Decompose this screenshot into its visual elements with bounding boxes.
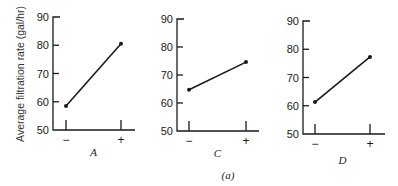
effect-line (315, 57, 370, 102)
x-tick-label-minus: − (311, 137, 318, 151)
y-tick-label: 80 (287, 43, 299, 55)
panel-factor-a: 5060708090−+A (37, 11, 135, 158)
y-tick-label: 80 (161, 41, 173, 53)
data-point (368, 55, 372, 59)
y-tick-label: 80 (37, 39, 49, 51)
x-tick-label-minus: − (62, 133, 69, 147)
x-tick-label-plus: + (242, 134, 249, 148)
data-point (119, 42, 123, 46)
y-tick-label: 50 (161, 125, 173, 137)
factor-label: C (214, 147, 222, 159)
y-tick-label: 60 (287, 100, 299, 112)
factor-label: A (89, 146, 97, 158)
figure-caption: (a) (222, 169, 235, 182)
panel-factor-c: 5060708090−+C (161, 13, 259, 159)
x-tick-label-plus: + (366, 137, 373, 151)
y-tick-label: 70 (161, 69, 173, 81)
y-tick-label: 70 (37, 68, 49, 80)
effect-line (189, 62, 246, 90)
effect-line (66, 44, 121, 106)
y-tick-label: 60 (37, 96, 49, 108)
y-tick-label: 60 (161, 97, 173, 109)
data-point (313, 100, 317, 104)
y-axis-label: Average filtration rate (gal/hr) (14, 6, 26, 142)
y-tick-label: 50 (37, 124, 49, 136)
data-point (64, 104, 68, 108)
y-tick-label: 90 (161, 13, 173, 25)
factor-label: D (338, 154, 347, 166)
panel-factor-d: 5060708090−+D (287, 15, 385, 166)
data-point (187, 88, 191, 92)
y-tick-label: 50 (287, 128, 299, 140)
data-point (244, 60, 248, 64)
y-tick-label: 70 (287, 72, 299, 84)
main-effects-plot: Average filtration rate (gal/hr) 5060708… (0, 0, 398, 186)
x-tick-label-minus: − (185, 134, 192, 148)
y-tick-label: 90 (37, 11, 49, 23)
x-tick-label-plus: + (117, 133, 124, 147)
y-tick-label: 90 (287, 15, 299, 27)
